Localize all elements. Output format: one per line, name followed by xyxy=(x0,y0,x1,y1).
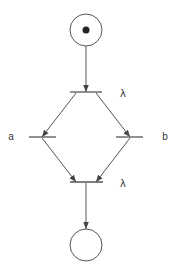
arc-t_split-to-t_b xyxy=(96,93,130,137)
transition-label-split: λ xyxy=(120,89,126,99)
arc-t_b-to-t_join xyxy=(96,138,130,182)
transitions-group xyxy=(29,92,143,182)
transition-label-a: a xyxy=(8,132,14,142)
arc-t_a-to-t_join xyxy=(42,138,76,182)
petri-net-diagram xyxy=(0,0,180,273)
transition-label-join: λ xyxy=(120,179,126,189)
transition-label-b: b xyxy=(162,132,168,142)
place-circle-p_end xyxy=(70,229,102,261)
token-icon xyxy=(83,27,90,34)
arc-t_split-to-t_a xyxy=(42,93,76,137)
